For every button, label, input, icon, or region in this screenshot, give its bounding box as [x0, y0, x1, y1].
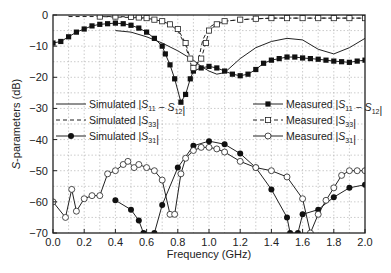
x-tick-label: 0.8	[170, 236, 185, 248]
y-tick-label: −70	[29, 227, 48, 239]
legend-entry: Simulated |S31|	[56, 130, 159, 145]
y-tick-label: −10	[29, 40, 48, 52]
svg-text:Measured |S31|: Measured |S31|	[286, 130, 356, 145]
x-tick-label: 0.2	[77, 236, 92, 248]
y-tick-label: −30	[29, 102, 48, 114]
legend-entry: Measured |S31|	[253, 130, 356, 145]
svg-text:Simulated |S33|: Simulated |S33|	[89, 114, 159, 129]
x-tick-label: 1.6	[295, 236, 310, 248]
x-tick-label: 0.6	[139, 236, 154, 248]
y-axis-label: S-parameters (dB)	[10, 79, 22, 169]
y-tick-label: −60	[29, 196, 48, 208]
x-axis-label: Frequency (GHz)	[167, 248, 251, 260]
x-tick-label: 1.8	[326, 236, 341, 248]
x-tick-label: 1.4	[264, 236, 279, 248]
s-parameters-chart: 0.00.20.40.60.81.01.21.41.61.82.00−10−20…	[0, 0, 391, 273]
legend-entry: Simulated |S33|	[56, 114, 159, 129]
y-tick-label: 0	[42, 9, 48, 21]
legend: Simulated |S11 − S12|Simulated |S33|Simu…	[56, 98, 382, 145]
y-tick-label: −40	[29, 134, 48, 146]
axis-ticks: 0.00.20.40.60.81.01.21.41.61.82.00−10−20…	[29, 9, 372, 248]
x-tick-label: 2.0	[357, 236, 372, 248]
x-tick-label: 1.2	[233, 236, 248, 248]
x-tick-label: 0.4	[108, 236, 123, 248]
legend-entry: Measured |S33|	[253, 114, 356, 129]
y-tick-label: −20	[29, 71, 48, 83]
x-tick-label: 1.0	[201, 236, 216, 248]
y-tick-label: −50	[29, 165, 48, 177]
svg-text:Measured |S33|: Measured |S33|	[286, 114, 356, 129]
svg-text:Simulated |S31|: Simulated |S31|	[89, 130, 159, 145]
